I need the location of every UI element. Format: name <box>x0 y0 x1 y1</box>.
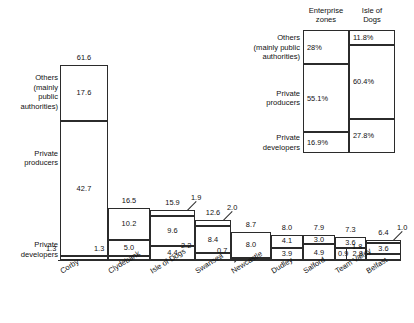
legend-value: 60.4% <box>353 78 374 85</box>
bar-total-label: 7.3 <box>335 226 366 233</box>
legend-value: 27.8% <box>353 132 374 139</box>
legend-row-label: Others (mainly public authorities) <box>222 33 300 61</box>
segment-value-label: 9.6 <box>167 227 178 234</box>
legend-value: 28% <box>307 44 322 51</box>
legend-row-label: Private producers <box>222 89 300 108</box>
segment-value-label: 0.9 <box>338 250 349 257</box>
legend-value: 11.8% <box>353 34 373 41</box>
legend-cell-enterprise-zones: 55.1% <box>303 64 349 132</box>
segment-value-label: 4.1 <box>282 237 293 244</box>
bar-segment-developers[interactable] <box>60 256 108 260</box>
bar-total-label: 8.0 <box>271 224 303 231</box>
legend-column-header-isle-of-dogs: Isle of Dogs <box>346 6 398 25</box>
segment-value-label: 8.4 <box>208 236 219 243</box>
legend-cell-enterprise-zones: 16.9% <box>303 132 349 153</box>
segment-value-label: 8.0 <box>246 241 257 248</box>
bar-total-label: 7.9 <box>303 224 335 231</box>
segment-value-label: 10.2 <box>122 220 137 227</box>
legend-value: 55.1% <box>307 95 328 102</box>
segment-value-label: 3.6 <box>378 245 389 252</box>
bar-total-label: 15.9 <box>150 199 195 206</box>
bar-segment-others[interactable]: 10.2 <box>108 208 150 240</box>
legend-row-label: Private developers <box>222 133 300 152</box>
segment-value-label: 42.7 <box>77 185 92 192</box>
bar-total-label: 16.5 <box>108 197 150 204</box>
bar-total-label: 6.4 <box>366 229 401 236</box>
legend-cell-isle-of-dogs: 60.4% <box>349 45 395 119</box>
bar-segment-others[interactable]: 4.1 <box>271 235 303 248</box>
legend-cell-enterprise-zones: 28% <box>303 30 349 64</box>
chart-root: Others (mainly public authorities) Priva… <box>0 0 414 323</box>
legend-cell-isle-of-dogs: 27.8% <box>349 119 395 153</box>
legend-cell-isle-of-dogs: 11.8% <box>349 30 395 45</box>
legend-column-header-enterprise-zones: Enterprise zones <box>300 6 352 25</box>
segment-callout-label: 1.3 <box>46 245 56 252</box>
segment-value-label: 4.9 <box>314 249 325 256</box>
bar-segment-others[interactable]: 3.0 <box>303 235 335 244</box>
legend-panel: Enterprise zonesIsle of Dogs28%11.8%55.1… <box>0 0 414 180</box>
segment-divider <box>346 249 347 259</box>
bar-total-label: 12.6 <box>195 209 231 216</box>
legend-value: 16.9% <box>307 139 328 146</box>
segment-value-label: 3.0 <box>314 236 325 243</box>
segment-callout-label: 1.3 <box>94 245 104 252</box>
bar-total-label: 8.7 <box>231 221 271 228</box>
